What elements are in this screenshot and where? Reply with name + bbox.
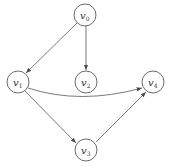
edge-v0-v1 (26, 23, 77, 73)
node-v0: v0 (74, 4, 96, 26)
node-v2: v2 (75, 71, 97, 93)
edge-v1-v3 (25, 91, 76, 143)
edge-v3-v4 (96, 92, 146, 142)
node-v1: v1 (7, 71, 29, 93)
node-v3: v3 (75, 139, 97, 161)
graph-canvas: v0 v1 v2 v4 v3 (0, 0, 172, 168)
node-v4: v4 (142, 71, 164, 93)
